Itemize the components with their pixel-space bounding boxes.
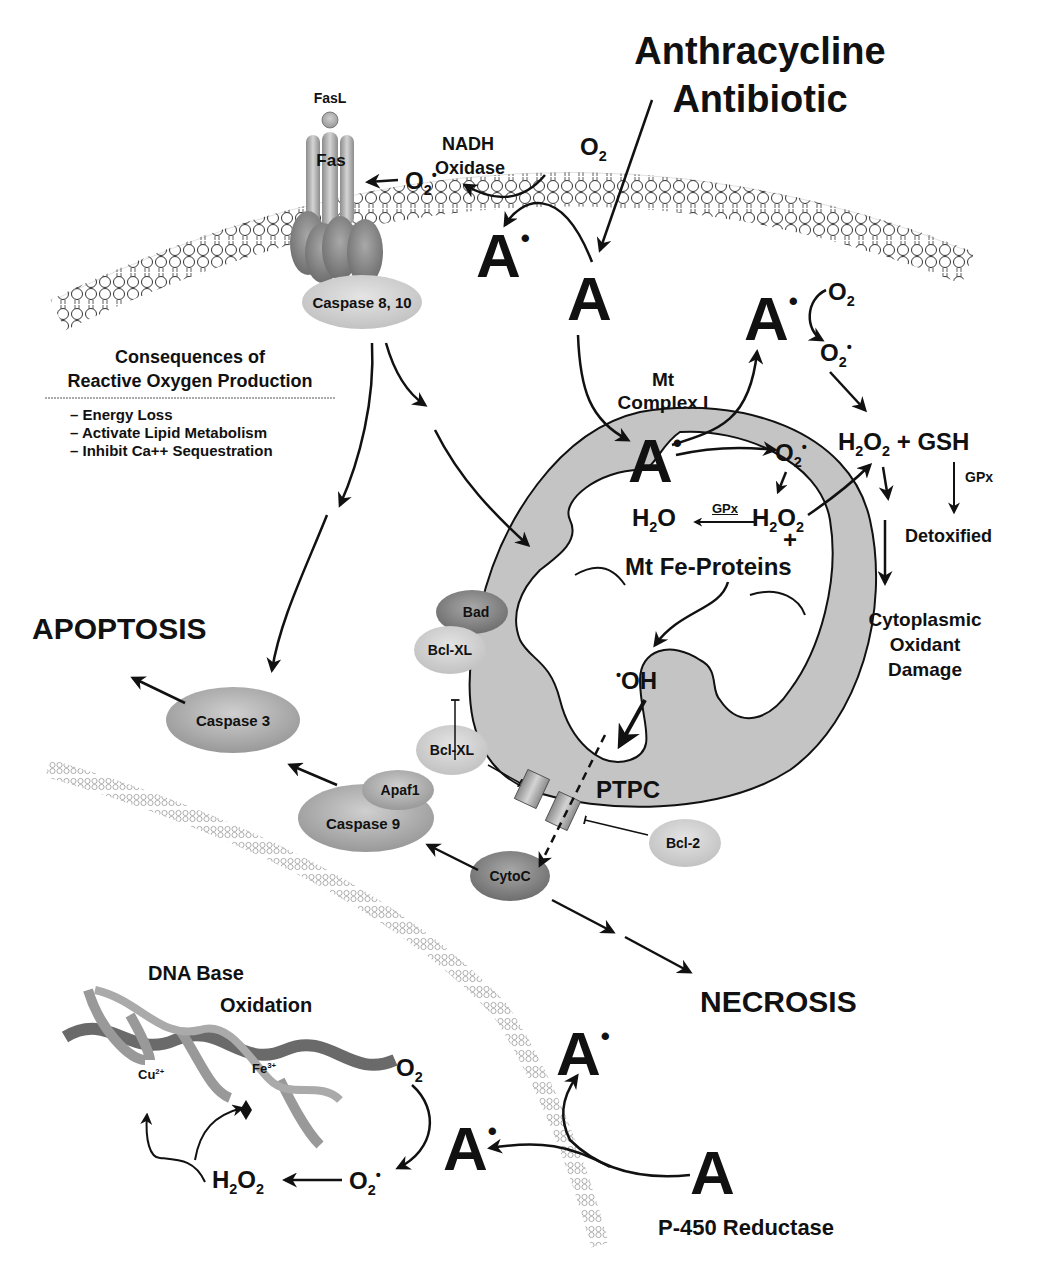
- consequence-item: – Inhibit Ca++ Sequestration: [70, 443, 273, 458]
- right-gpx: GPx: [965, 470, 993, 484]
- mito-gpx: GPx: [712, 502, 738, 515]
- right-a-radical: A•: [744, 288, 798, 350]
- damage-line3: Damage: [888, 660, 962, 679]
- consequences-heading-2: Reactive Oxygen Production: [67, 372, 312, 390]
- cu-label: Cu2+: [138, 1068, 164, 1081]
- mito-h2o: H2O: [632, 506, 676, 534]
- hydroxyl-radical: •OH: [616, 668, 657, 693]
- apoptosis-label: APOPTOSIS: [32, 614, 207, 644]
- necrosis-label: NECROSIS: [700, 987, 857, 1017]
- consequences-heading-1: Consequences of: [115, 348, 265, 366]
- right-superoxide: O2•: [820, 340, 852, 369]
- bcl2-label: Bcl-2: [666, 836, 700, 850]
- a-radical-top: A•: [476, 225, 530, 287]
- bclxl-1-label: Bcl-XL: [428, 643, 472, 657]
- complex-label-2: Complex I: [618, 393, 709, 412]
- nucleus-h2o2: H2O2: [212, 1168, 264, 1196]
- mito-superoxide: O2•: [775, 440, 807, 469]
- detoxified-label: Detoxified: [905, 527, 992, 545]
- consequence-item: – Energy Loss: [70, 407, 273, 422]
- fe-label: Fe3+: [252, 1062, 276, 1075]
- title-line2: Antibiotic: [672, 80, 847, 118]
- complex-label-1: Mt: [652, 370, 674, 389]
- fasl-icon: [322, 112, 338, 128]
- a-top: A: [567, 268, 612, 330]
- caspase3-label: Caspase 3: [196, 713, 270, 728]
- mito-fe-proteins: Mt Fe-Proteins: [625, 555, 792, 579]
- bad-label: Bad: [463, 605, 489, 619]
- consequence-item: – Activate Lipid Metabolism: [70, 425, 273, 440]
- apaf1-label: Apaf1: [381, 783, 420, 797]
- superoxide-membrane-label: O2•: [405, 168, 437, 197]
- bclxl-2-label: Bcl-XL: [430, 743, 474, 757]
- damage-line2: Oxidant: [890, 635, 961, 654]
- nadh-label: NADH: [442, 135, 494, 153]
- mito-plus: +: [783, 528, 797, 552]
- mito-a-radical: A•: [628, 430, 682, 492]
- nucleus-superoxide: O2•: [349, 1168, 381, 1197]
- nucleus-a-bottom: A: [690, 1142, 735, 1204]
- h2o2-gsh: H2O2 + GSH: [838, 430, 969, 458]
- nucleus-a-radical-left: A•: [443, 1118, 497, 1180]
- caspase9-label: Caspase 9: [326, 816, 400, 831]
- title-line1: Anthracycline: [634, 32, 885, 70]
- p450-label: P-450 Reductase: [658, 1217, 834, 1239]
- oxidase-label: Oxidase: [435, 159, 505, 177]
- o2-top-label: O2: [580, 135, 607, 163]
- fas-label: Fas: [316, 152, 345, 169]
- fasl-label: FasL: [314, 91, 347, 105]
- consequences-list: – Energy Loss – Activate Lipid Metabolis…: [70, 404, 273, 461]
- nucleus-o2: O2: [396, 1056, 423, 1084]
- dna-label-2: Oxidation: [220, 995, 312, 1015]
- nucleus-a-radical-up: A•: [556, 1023, 610, 1085]
- ptpc-label: PTPC: [596, 778, 660, 802]
- dna-label-1: DNA Base: [148, 963, 244, 983]
- right-o2: O2: [828, 280, 855, 308]
- caspase-8-10-label: Caspase 8, 10: [312, 295, 411, 310]
- damage-line1: Cytoplasmic: [869, 610, 982, 629]
- cytoc-label: CytoC: [489, 869, 530, 883]
